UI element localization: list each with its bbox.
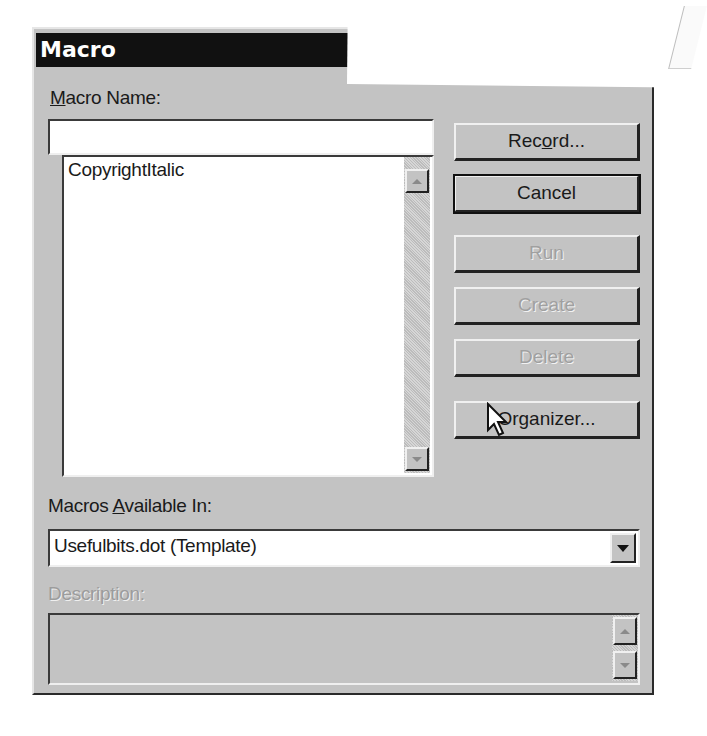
paper-overlay <box>347 0 699 88</box>
list-scrollbar[interactable] <box>404 157 430 473</box>
triangle-up-icon <box>412 179 422 184</box>
create-button[interactable]: Create <box>454 287 640 325</box>
macro-list[interactable]: CopyrightItalic <box>62 155 434 477</box>
delete-button[interactable]: Delete <box>454 339 640 377</box>
triangle-up-icon <box>620 629 630 634</box>
list-item[interactable]: CopyrightItalic <box>68 159 184 181</box>
list-scroll-up-button[interactable] <box>405 169 429 193</box>
macros-available-in-select[interactable]: Usefulbits.dot (Template) <box>48 529 640 567</box>
macro-dialog: Macro Macro Name: CopyrightItalic Record… <box>32 27 654 695</box>
cancel-button[interactable]: Cancel <box>454 175 640 213</box>
record-button[interactable]: Record... <box>454 123 640 161</box>
macro-name-label: Macro Name: <box>50 87 161 109</box>
description-label: Description: <box>48 583 145 605</box>
run-button[interactable]: Run <box>454 235 640 273</box>
list-scroll-down-button[interactable] <box>405 447 429 471</box>
dialog-title: Macro <box>40 37 116 62</box>
description-scroll-down-button[interactable] <box>613 651 637 679</box>
triangle-down-icon <box>412 457 422 462</box>
mouse-pointer-icon <box>486 402 512 438</box>
organizer-button[interactable]: Organizer... <box>454 401 640 439</box>
macros-available-in-label: Macros Available In: <box>48 495 212 517</box>
description-box <box>48 613 640 685</box>
description-scroll-up-button[interactable] <box>613 617 637 645</box>
macro-name-input[interactable] <box>48 119 434 155</box>
dropdown-button[interactable] <box>610 533 636 563</box>
triangle-down-icon <box>620 663 630 668</box>
chevron-down-icon <box>617 545 629 552</box>
